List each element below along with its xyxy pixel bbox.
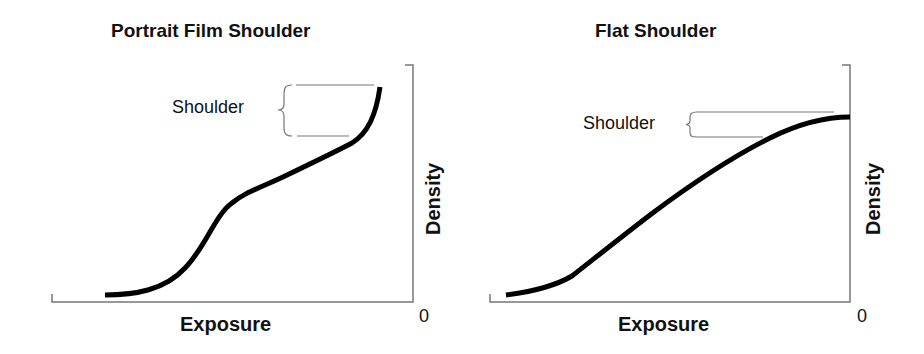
right-origin-label: 0 (857, 306, 867, 327)
left-chart-title: Portrait Film Shoulder (111, 20, 311, 42)
left-y-axis-label: Density (422, 163, 445, 235)
right-axes (490, 65, 850, 302)
right-chart-title: Flat Shoulder (595, 20, 716, 42)
left-characteristic-curve (105, 87, 380, 295)
right-characteristic-curve (506, 117, 850, 295)
right-shoulder-label: Shoulder (583, 113, 655, 134)
left-shoulder-brace (278, 85, 374, 136)
left-origin-label: 0 (419, 306, 429, 327)
left-shoulder-label: Shoulder (172, 97, 244, 118)
right-x-axis-label: Exposure (618, 313, 709, 336)
diagram-canvas (0, 0, 924, 354)
right-y-axis-label: Density (862, 163, 885, 235)
left-x-axis-label: Exposure (180, 313, 271, 336)
